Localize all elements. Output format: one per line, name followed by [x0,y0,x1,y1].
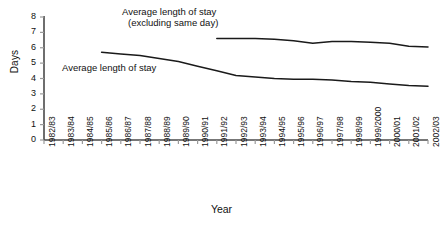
y-tick-label: 5 [20,58,36,67]
x-tick-label: 1983/84 [67,116,76,147]
x-tick-label: 1999/2000 [374,107,383,147]
annotation-line-2: (excluding same day) [122,17,218,28]
x-tick-label: 1984/85 [86,116,95,147]
y-tick-label: 8 [20,12,36,21]
x-tick-label: 1987/88 [144,116,153,147]
annotation-text: Average length of stay [62,62,156,73]
x-tick-label: 1982/83 [48,116,57,147]
y-tick-label: 0 [20,135,36,144]
x-tick-label: 2001/02 [412,116,421,147]
x-tick-label: 1994/95 [278,116,287,147]
y-tick-label: 6 [20,43,36,52]
x-tick-label: 1985/86 [105,116,114,147]
x-tick-label: 2002/03 [432,116,441,147]
x-tick-label: 1995/96 [297,116,306,147]
series-annotation-excluding-same-day: Average length of stay (excluding same d… [122,6,218,28]
line-chart: Days 012345678 1982/831983/841984/851985… [0,0,443,226]
x-tick-label: 2000/01 [393,116,402,147]
annotation-line-1: Average length of stay [122,6,216,17]
y-tick-label: 1 [20,120,36,129]
x-tick-label: 1997/98 [336,116,345,147]
x-tick-label: 1986/87 [124,116,133,147]
x-tick-label: 1990/91 [201,116,210,147]
y-tick-label: 2 [20,104,36,113]
y-tick-label: 4 [20,74,36,83]
x-tick-label: 1992/93 [240,116,249,147]
x-tick-label: 1996/97 [316,116,325,147]
x-tick-label: 1993/94 [259,116,268,147]
y-tick-label: 7 [20,27,36,36]
series-line-2 [217,39,428,47]
y-tick-label: 3 [20,89,36,98]
x-tick-label: 1989/90 [182,116,191,147]
x-tick-label: 1998/99 [355,116,364,147]
y-axis-title: Days [9,32,20,92]
x-axis-title: Year [0,203,443,215]
x-tick-label: 1988/89 [163,116,172,147]
series-annotation-average-length-of-stay: Average length of stay [62,62,156,73]
x-tick-label: 1991/92 [220,116,229,147]
